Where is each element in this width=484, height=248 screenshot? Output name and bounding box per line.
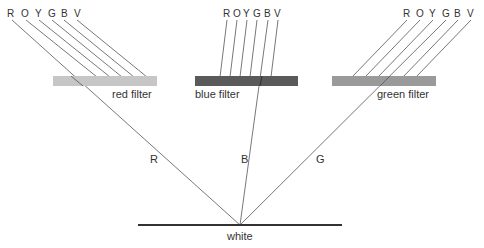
svg-text:B: B: [61, 8, 68, 19]
ray-label-b: B: [241, 153, 248, 165]
svg-text:G: G: [253, 8, 261, 19]
green-filter-label: green filter: [377, 88, 429, 100]
green-incoming-rays: [240, 20, 471, 225]
white-label: white: [226, 230, 253, 242]
svg-text:Y: Y: [429, 8, 436, 19]
green-spectrum-labels: R O Y G B V: [403, 8, 474, 19]
svg-text:O: O: [21, 8, 29, 19]
svg-text:R: R: [403, 8, 410, 19]
svg-text:R: R: [223, 8, 230, 19]
red-incoming-rays: [12, 20, 240, 225]
svg-text:G: G: [442, 8, 450, 19]
blue-filter: [195, 76, 298, 86]
svg-text:Y: Y: [243, 8, 250, 19]
svg-text:V: V: [74, 8, 81, 19]
blue-filter-label: blue filter: [195, 88, 240, 100]
svg-text:O: O: [233, 8, 241, 19]
red-filter: [53, 76, 157, 86]
svg-text:O: O: [416, 8, 424, 19]
svg-text:V: V: [467, 8, 474, 19]
svg-text:R: R: [7, 8, 14, 19]
red-filter-label: red filter: [112, 88, 152, 100]
green-filter: [332, 76, 436, 86]
svg-text:Y: Y: [35, 8, 42, 19]
ray-label-r: R: [150, 153, 158, 165]
blue-spectrum-labels: R O Y G B V: [223, 8, 281, 19]
svg-text:B: B: [454, 8, 461, 19]
svg-text:B: B: [264, 8, 271, 19]
ray-label-g: G: [316, 153, 325, 165]
blue-incoming-rays: [220, 20, 278, 225]
svg-text:G: G: [48, 8, 56, 19]
color-filter-diagram: R O Y G B V R O Y G B V R O Y G B V red …: [0, 0, 484, 248]
red-spectrum-labels: R O Y G B V: [7, 8, 81, 19]
svg-text:V: V: [274, 8, 281, 19]
